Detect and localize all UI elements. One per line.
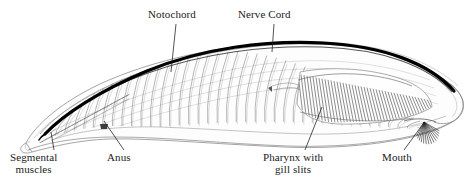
- label-nerve-cord-text: Nerve Cord: [238, 8, 291, 20]
- lancelet-anatomy-figure: Notochord Nerve Cord Segmental muscles A…: [0, 0, 472, 187]
- label-anus: Anus: [107, 152, 131, 164]
- label-pharynx-line2: gill slits: [263, 164, 323, 176]
- label-segmental-muscles-line1: Segmental: [10, 151, 57, 163]
- label-nerve-cord: Nerve Cord: [238, 9, 291, 21]
- label-pharynx-gill-slits: Pharynx with gill slits: [263, 152, 323, 175]
- label-notochord-text: Notochord: [148, 8, 196, 20]
- label-mouth-text: Mouth: [382, 151, 412, 163]
- label-segmental-muscles: Segmental muscles: [10, 152, 57, 175]
- label-notochord: Notochord: [148, 9, 196, 21]
- label-mouth: Mouth: [382, 152, 412, 164]
- label-anus-text: Anus: [107, 151, 131, 163]
- label-segmental-muscles-line2: muscles: [10, 164, 57, 176]
- label-pharynx-line1: Pharynx with: [263, 151, 323, 163]
